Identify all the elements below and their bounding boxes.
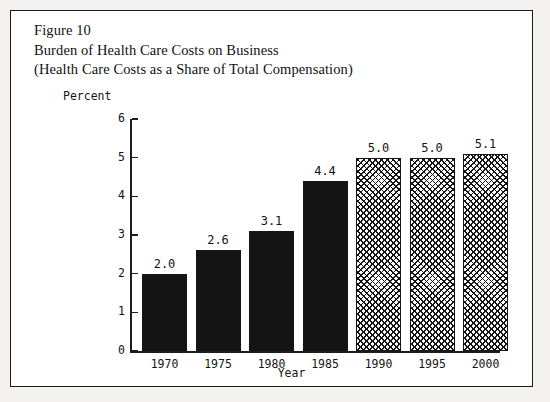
x-axis-title-text: Year (278, 366, 306, 380)
bar-1990 (356, 158, 401, 351)
bar-1975 (196, 250, 241, 351)
y-axis-tick-mark (132, 196, 138, 198)
bar-value-label: 5.1 (463, 137, 508, 151)
y-axis-tick-label: 5 (109, 150, 125, 164)
bar-chart: Percent 0123456 2.02.63.14.45.05.05.1 19… (11, 11, 534, 388)
bar-1970 (142, 274, 187, 351)
bar-value-label: 2.6 (196, 233, 241, 247)
figure-screenshot: Figure 10 Burden of Health Care Costs on… (0, 0, 550, 402)
y-axis-tick-label: 3 (109, 227, 125, 241)
y-axis-title: Percent (63, 89, 111, 103)
y-axis-tick-mark (132, 273, 138, 275)
y-axis-tick-label: 4 (109, 188, 125, 202)
bar-1980 (249, 231, 294, 351)
y-axis-tick-label: 1 (109, 304, 125, 318)
y-axis-tick-mark (132, 118, 138, 120)
y-axis-tick-mark (132, 234, 138, 236)
bar-value-label: 5.0 (356, 141, 401, 155)
bar-2000 (463, 154, 508, 351)
y-axis-tick-mark (132, 312, 138, 314)
bar-value-label: 5.0 (410, 141, 455, 155)
figure-border: Figure 10 Burden of Health Care Costs on… (10, 10, 533, 387)
x-axis-line (130, 351, 500, 353)
bar-1985 (303, 181, 348, 351)
bar-value-label: 2.0 (142, 257, 187, 271)
bar-1995 (410, 158, 455, 351)
y-axis-tick-mark (132, 157, 138, 159)
y-axis-tick-label: 0 (109, 343, 125, 357)
y-axis-tick-mark (132, 350, 138, 352)
bar-value-label: 4.4 (303, 164, 348, 178)
y-axis-tick-label: 6 (109, 111, 125, 125)
y-axis-tick-label: 2 (109, 266, 125, 280)
bar-value-label: 3.1 (249, 214, 294, 228)
x-axis-title: Year (11, 366, 534, 380)
